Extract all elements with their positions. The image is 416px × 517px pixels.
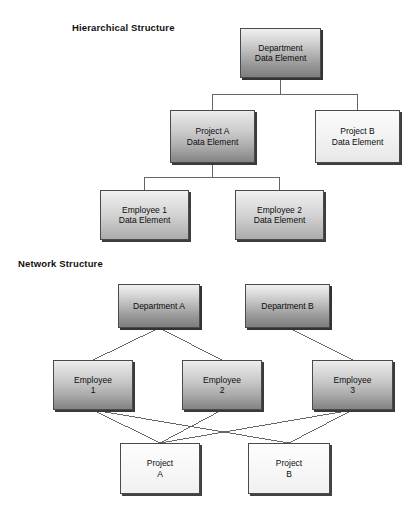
node-h-department[interactable]: Department Data Element [240,28,321,78]
node-label: Department B [259,301,315,311]
node-h-employee-1[interactable]: Employee 1 Data Element [100,190,189,240]
node-n-department-b[interactable]: Department B [245,284,330,328]
node-label: Employee 2 Data Element [252,205,308,226]
node-h-project-a[interactable]: Project A Data Element [170,110,255,163]
node-label: Project A [145,458,175,479]
node-label: Project B Data Element [330,126,386,147]
diagram-canvas: Department Data ElementProject A Data El… [0,0,416,517]
node-n-employee-1[interactable]: Employee 1 [53,360,133,410]
node-label: Project B [274,458,304,479]
connector-n-employee-3-to-n-project-b [289,410,353,443]
node-n-department-a[interactable]: Department A [118,284,200,328]
connector-n-department-a-to-n-employee-2 [159,328,222,360]
node-label: Project A Data Element [185,126,241,147]
connector-n-department-a-to-n-employee-1 [93,328,159,360]
node-h-project-b[interactable]: Project B Data Element [315,110,400,163]
node-n-employee-3[interactable]: Employee 3 [312,360,393,410]
node-label: Employee 2 [201,375,243,396]
node-label: Employee 1 Data Element [117,205,173,226]
node-label: Department A [131,301,187,311]
connector-n-employee-1-to-n-project-a [93,410,160,443]
node-n-employee-2[interactable]: Employee 2 [182,360,262,410]
node-h-employee-2[interactable]: Employee 2 Data Element [235,190,324,240]
section-title-network: Network Structure [18,258,103,269]
node-label: Employee 3 [332,375,374,396]
connector-n-department-b-to-n-employee-3 [288,328,353,360]
node-label: Department Data Element [253,43,309,64]
node-n-project-b[interactable]: Project B [248,443,330,494]
node-n-project-a[interactable]: Project A [120,443,200,494]
node-label: Employee 1 [72,375,114,396]
section-title-hierarchical: Hierarchical Structure [72,22,175,33]
